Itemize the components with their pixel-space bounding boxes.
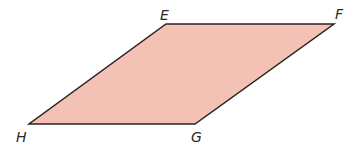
parallelogram-diagram: E F G H [0,0,359,149]
parallelogram-efgh [29,24,334,124]
vertex-label-e: E [160,7,169,23]
vertex-label-f: F [335,6,344,22]
vertex-label-g: G [191,129,202,145]
vertex-label-h: H [16,129,27,145]
